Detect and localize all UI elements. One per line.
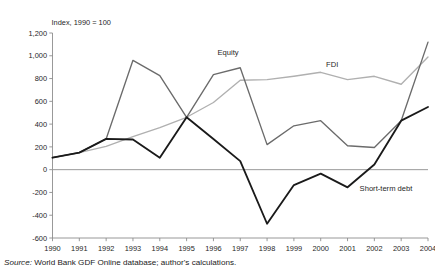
series-line-equity: [53, 42, 429, 158]
source-note: Source: World Bank GDF Online database; …: [4, 258, 236, 267]
x-tick-label: 1997: [232, 244, 248, 253]
x-tick-label: 1995: [178, 244, 194, 253]
x-tick-label: 2004: [420, 244, 435, 253]
y-tick-label: 800: [35, 74, 47, 83]
x-tick-label: 1991: [71, 244, 87, 253]
line-chart: 1,2001,0008006004002000-200-400-60019901…: [0, 0, 435, 252]
y-tick-label: -600: [32, 234, 47, 243]
y-tick-label: 600: [35, 97, 47, 106]
series-label-short-term-debt: Short-term debt: [360, 184, 414, 193]
x-tick-label: 2002: [366, 244, 382, 253]
x-tick-label: 1998: [259, 244, 275, 253]
y-tick-label: -400: [32, 211, 47, 220]
y-tick-label: 400: [35, 120, 47, 129]
x-tick-label: 1990: [44, 244, 60, 253]
series-line-fdi: [53, 57, 429, 158]
figure-container: 1,2001,0008006004002000-200-400-60019901…: [0, 0, 435, 278]
source-label: Source:: [4, 258, 32, 267]
series-line-short-term-debt: [53, 107, 429, 224]
y-tick-label: 0: [43, 165, 47, 174]
x-tick-label: 2001: [339, 244, 355, 253]
y-axis-caption: Index, 1990 = 100: [52, 18, 111, 27]
y-tick-label: 200: [35, 143, 47, 152]
x-tick-label: 2003: [393, 244, 409, 253]
source-text: World Bank GDF Online database; author's…: [32, 258, 236, 267]
series-label-fdi: FDI: [326, 60, 338, 69]
y-tick-label: 1,000: [29, 51, 48, 60]
x-tick-label: 2000: [312, 244, 328, 253]
x-tick-label: 1999: [286, 244, 302, 253]
y-tick-label: -200: [32, 188, 47, 197]
x-tick-label: 1992: [98, 244, 114, 253]
x-tick-label: 1996: [205, 244, 221, 253]
y-tick-label: 1,200: [29, 29, 48, 38]
series-label-equity: Equity: [217, 48, 238, 57]
x-tick-label: 1993: [125, 244, 141, 253]
x-tick-label: 1994: [152, 244, 168, 253]
